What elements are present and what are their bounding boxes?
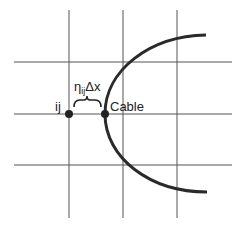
cable-label: Cable xyxy=(110,99,144,114)
cable-grid-diagram: ij Cable ηijΔx xyxy=(0,0,238,231)
eta-delta-x-label: ηijΔx xyxy=(74,79,101,96)
node-ij-label: ij xyxy=(55,99,61,114)
eta-symbol: η xyxy=(74,79,81,94)
brace-icon xyxy=(74,96,101,107)
delta-x: Δx xyxy=(85,79,101,94)
node-ij-dot xyxy=(65,110,73,118)
cable-intersection-dot xyxy=(101,110,109,118)
grid xyxy=(14,10,232,218)
